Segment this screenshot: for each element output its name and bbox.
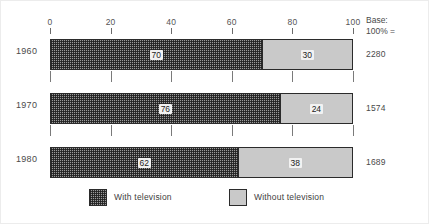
- legend-label: Without television: [254, 192, 324, 202]
- legend-label: With television: [114, 192, 172, 202]
- gap-tick-40-lower: [171, 125, 172, 136]
- bar-value-label: 76: [159, 104, 172, 114]
- bar-value-label: 24: [310, 104, 323, 114]
- gap-tick-20-lower: [111, 125, 112, 136]
- axis-tick-mark-60: [232, 28, 233, 34]
- gap-tick-60-upper: [232, 71, 233, 82]
- table-row: 76 24: [50, 93, 353, 124]
- bar-segment-with-television-1980: 62: [51, 148, 238, 177]
- bar-segment-with-television-1960: 70: [51, 40, 262, 69]
- category-label-1960: 1960: [16, 46, 37, 56]
- category-label-1970: 1970: [16, 100, 37, 110]
- legend-swatch-without-television-icon: [229, 189, 247, 206]
- legend-item-with-television: With television: [89, 187, 172, 207]
- axis-tick-mark-80: [292, 28, 293, 34]
- gap-tick-0-upper: [50, 71, 51, 82]
- gap-tick-40-upper: [171, 71, 172, 82]
- base-value-1980: 1689: [366, 157, 386, 167]
- chart-legend: With television Without television: [1, 187, 429, 211]
- axis-tick-label-0: 0: [48, 17, 53, 27]
- bar-value-label: 30: [301, 50, 314, 60]
- gap-tick-0-lower: [50, 125, 51, 136]
- axis-tick-label-100: 100: [346, 17, 361, 27]
- gap-tick-80-upper: [292, 71, 293, 82]
- gap-tick-100-lower: [353, 125, 354, 136]
- axis-tick-label-80: 80: [287, 17, 297, 27]
- base-column-header: Base: 100% =: [366, 15, 395, 37]
- axis-tick-label-40: 40: [166, 17, 176, 27]
- legend-item-without-television: Without television: [229, 187, 324, 207]
- legend-swatch-with-television-icon: [89, 189, 107, 206]
- gap-tick-80-lower: [292, 125, 293, 136]
- gap-tick-60-lower: [232, 125, 233, 136]
- bar-segment-without-television-1970: 24: [280, 94, 352, 123]
- axis-tick-mark-100: [353, 28, 354, 34]
- bar-value-label: 70: [150, 50, 163, 60]
- stacked-bar-1970: 76 24: [50, 93, 353, 124]
- axis-tick-mark-0: [50, 28, 51, 34]
- chart-frame: 0 20 40 60 80 100 1960 1970 1980 70: [0, 0, 429, 224]
- base-header-line2: 100% =: [366, 26, 395, 37]
- gap-tick-100-upper: [353, 71, 354, 82]
- base-value-1970: 1574: [366, 103, 386, 113]
- axis-tick-mark-20: [111, 28, 112, 34]
- table-row: 70 30: [50, 39, 353, 70]
- bar-segment-without-television-1980: 38: [238, 148, 352, 177]
- gap-tick-20-upper: [111, 71, 112, 82]
- table-row: 62 38: [50, 147, 353, 178]
- axis-tick-label-20: 20: [106, 17, 116, 27]
- base-value-1960: 2280: [366, 49, 386, 59]
- bar-value-label: 38: [289, 158, 302, 168]
- bar-value-label: 62: [138, 158, 151, 168]
- base-header-line1: Base:: [366, 15, 395, 26]
- axis-tick-mark-40: [171, 28, 172, 34]
- bar-segment-without-television-1960: 30: [262, 40, 352, 69]
- stacked-bar-1980: 62 38: [50, 147, 353, 178]
- axis-tick-label-60: 60: [227, 17, 237, 27]
- category-label-1980: 1980: [16, 154, 37, 164]
- bar-segment-with-television-1970: 76: [51, 94, 280, 123]
- stacked-bar-1960: 70 30: [50, 39, 353, 70]
